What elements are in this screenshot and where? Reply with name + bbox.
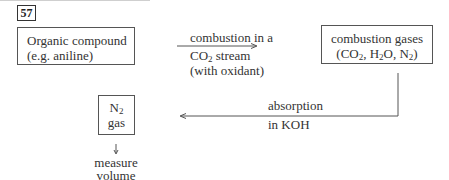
combustion-label-stream: CO2 stream [190, 48, 250, 63]
measure-arrow [114, 144, 118, 154]
combustion-label-oxidant: (with oxidant) [190, 63, 264, 78]
volume-label: volume [86, 168, 146, 180]
combustion-label-top: combustion in a [190, 30, 273, 45]
arrows-layer [0, 0, 449, 180]
absorption-label: absorption [268, 98, 323, 113]
absorption-reagent: in KOH [268, 117, 310, 132]
